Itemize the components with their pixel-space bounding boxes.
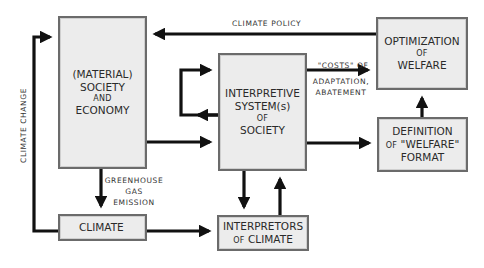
climate-change-label: CLIMATE CHANGE bbox=[19, 79, 30, 171]
climate-policy-label: CLIMATE POLICY bbox=[232, 19, 301, 30]
node-label: WELFARE bbox=[397, 59, 446, 72]
definition-welfare-format-node: DEFINITION OF "WELFARE" FORMAT bbox=[377, 117, 468, 172]
label-line: GAS bbox=[104, 187, 164, 198]
label-line: ADAPTATION, bbox=[306, 77, 376, 88]
node-label: CLIMATE bbox=[79, 221, 124, 234]
node-label: INTERPRETIVE bbox=[225, 87, 300, 100]
node-label: AND bbox=[93, 94, 112, 104]
material-society-economy-node: (MATERIAL) SOCIETY AND ECONOMY bbox=[58, 16, 147, 169]
node-label: ECONOMY bbox=[76, 104, 130, 117]
costs-label: "COSTS" OF bbox=[310, 61, 376, 72]
node-label: OPTIMIZATION bbox=[384, 35, 459, 48]
node-label: OF bbox=[416, 49, 428, 59]
node-label: "WELFARE" bbox=[401, 138, 460, 150]
label-line: ABATEMENT bbox=[306, 88, 376, 99]
label-line: GREENHOUSE bbox=[104, 176, 164, 187]
label-line: EMISSION bbox=[104, 198, 164, 209]
adaptation-abatement-label: ADAPTATION, ABATEMENT bbox=[306, 77, 376, 99]
interpretive-self-loop-arrow bbox=[181, 70, 218, 115]
node-label: OF bbox=[257, 114, 269, 124]
node-label: SOCIETY bbox=[240, 124, 285, 137]
node-label: FORMAT bbox=[401, 151, 444, 164]
node-label: OF bbox=[386, 141, 398, 150]
optimization-of-welfare-node: OPTIMIZATION OF WELFARE bbox=[376, 17, 468, 90]
node-label: INTERPRETORS bbox=[223, 220, 303, 233]
node-label: CLIMATE bbox=[248, 233, 293, 245]
node-label: (MATERIAL) bbox=[72, 68, 132, 81]
climate-change-arrow bbox=[34, 37, 58, 231]
interpretive-systems-node: INTERPRETIVE SYSTEM(s) OF SOCIETY bbox=[218, 53, 307, 171]
node-label: DEFINITION bbox=[392, 125, 452, 138]
node-label: SOCIETY bbox=[80, 81, 125, 94]
node-label-row: OF "WELFARE" bbox=[386, 138, 460, 151]
interpretors-of-climate-node: INTERPRETORS OF CLIMATE bbox=[217, 215, 309, 251]
greenhouse-gas-emission-label: GREENHOUSE GAS EMISSION bbox=[104, 176, 164, 209]
node-label: OF bbox=[233, 236, 245, 245]
climate-node: CLIMATE bbox=[58, 214, 147, 241]
node-label: SYSTEM(s) bbox=[235, 100, 291, 113]
node-label-row: OF CLIMATE bbox=[233, 233, 293, 246]
